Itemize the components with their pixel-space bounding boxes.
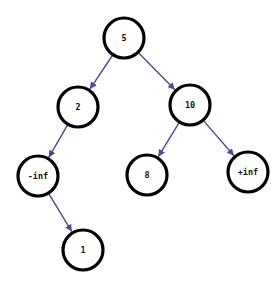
node-label: 5 — [121, 33, 126, 43]
node-label: 2 — [75, 102, 80, 112]
binary-tree-diagram: 5210-inf8+inf1 — [0, 0, 279, 291]
nodes-layer: 5210-inf8+inf1 — [18, 18, 268, 270]
edge-arrow-2-to--inf — [49, 125, 68, 157]
edge-arrow-5-to-10 — [139, 53, 175, 90]
edge-arrow-10-to-8 — [158, 123, 179, 157]
tree-node: +inf — [228, 152, 268, 192]
edge-arrow-10-to-+inf — [204, 121, 234, 156]
edge-arrow-5-to-2 — [90, 56, 113, 90]
tree-node: 1 — [63, 230, 103, 270]
node-label: 8 — [144, 170, 149, 180]
tree-node: 2 — [58, 87, 98, 127]
node-label: 1 — [80, 245, 85, 255]
node-label: -inf — [28, 171, 48, 181]
tree-node: 5 — [104, 18, 144, 58]
edges-layer — [49, 53, 234, 232]
node-label: 10 — [185, 100, 195, 110]
tree-node: 8 — [127, 155, 167, 195]
edge-arrow--inf-to-1 — [49, 194, 72, 232]
tree-node: 10 — [170, 85, 210, 125]
node-label: +inf — [238, 167, 258, 177]
tree-node: -inf — [18, 156, 58, 196]
